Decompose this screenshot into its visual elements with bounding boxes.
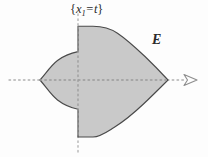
slice-label-close-brace: } <box>97 2 103 16</box>
region-E-shape <box>40 26 168 137</box>
figure-canvas: {x1=t} E <box>0 0 208 157</box>
region-label-E: E <box>152 33 161 47</box>
slice-label: {x1=t} <box>70 3 103 17</box>
slice-label-equals: = <box>86 2 94 16</box>
diagram-svg <box>0 0 208 157</box>
axis-arrowhead-icon <box>184 75 197 86</box>
